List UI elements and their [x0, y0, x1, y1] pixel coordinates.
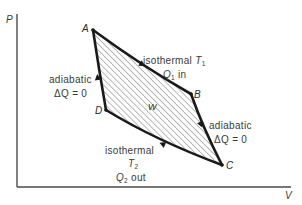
point-d-marker [104, 108, 108, 112]
adiabatic-da-label: adiabatic [49, 74, 92, 85]
q1-var: Q [163, 69, 171, 80]
q2-var: Q [116, 172, 124, 183]
point-c-marker [220, 163, 224, 167]
t1-sub: 1 [202, 60, 206, 67]
q1-in-text: in [175, 69, 186, 80]
isothermal-t1-text: isothermal [143, 55, 195, 66]
q2-out-label: Q2 out [116, 172, 146, 184]
point-c-label: C [226, 160, 234, 171]
isothermal-t1-label: isothermal T1 [143, 55, 206, 67]
adiabatic-bc-label: adiabatic [209, 120, 252, 131]
point-a-label: A [81, 23, 89, 34]
point-b-label: B [194, 89, 201, 100]
point-d-label: D [95, 105, 102, 116]
isothermal-t2-label: isothermal [105, 145, 154, 156]
t2-sub: 2 [134, 163, 138, 170]
adiabatic-bc-dq-label: ΔQ = 0 [214, 134, 247, 145]
v-axis-label: V [285, 190, 293, 201]
q1-in-label: Q1 in [163, 69, 186, 81]
point-a-marker [91, 28, 95, 32]
point-b-marker [189, 92, 193, 96]
p-axis-label: P [6, 14, 13, 25]
pv-diagram: P V A B C D W isothermal T1 Q1 in adiaba… [0, 0, 302, 205]
adiabatic-da-dq-label: ΔQ = 0 [54, 88, 87, 99]
t2-label: T2 [128, 158, 138, 170]
q2-out-text: out [128, 172, 146, 183]
